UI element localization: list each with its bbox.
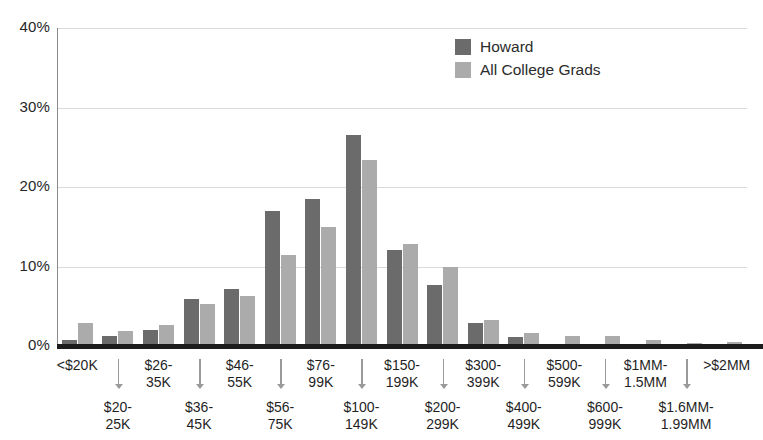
- legend-swatch-icon: [455, 62, 471, 78]
- bar-chart: 0%10%20%30%40% Howard All College Grads …: [0, 0, 763, 440]
- x-axis-tick-label: $20- 25K: [80, 399, 156, 433]
- bar-howard: [427, 285, 442, 346]
- bar-howard: [224, 289, 239, 346]
- x-axis-tick-label: >$2MM: [689, 357, 763, 374]
- bar-howard: [346, 135, 361, 346]
- bar-group: [630, 28, 661, 346]
- y-axis-line: [57, 28, 58, 347]
- x-axis-tick-label: $100- 149K: [323, 399, 399, 433]
- x-axis-tick-label: $46- 55K: [202, 357, 278, 391]
- bar-group: [265, 28, 296, 346]
- bar-howard: [387, 250, 402, 346]
- legend-swatch-icon: [455, 39, 471, 55]
- x-axis-tick-label: $300- 399K: [445, 357, 521, 391]
- x-axis-tick-label: $1.6MM- 1.99MM: [648, 399, 724, 433]
- bar-all-college-grads: [321, 227, 336, 346]
- bar-howard: [305, 199, 320, 346]
- bar-howard: [265, 211, 280, 346]
- x-axis-tick-label: $26- 35K: [120, 357, 196, 391]
- x-axis-tick-label: $1MM- 1.5MM: [608, 357, 684, 391]
- legend-item-all-college-grads: All College Grads: [455, 61, 601, 79]
- x-axis-tick-label: $36- 45K: [161, 399, 237, 433]
- bar-all-college-grads: [78, 323, 93, 346]
- bar-howard: [468, 323, 483, 346]
- y-axis-tick-label: 20%: [2, 177, 50, 194]
- bar-all-college-grads: [200, 304, 215, 346]
- bar-all-college-grads: [159, 325, 174, 346]
- bar-group: [711, 28, 742, 346]
- x-axis-tick-label: $200- 299K: [405, 399, 481, 433]
- x-axis-tick-label: $500- 599K: [526, 357, 602, 391]
- legend-label: Howard: [480, 38, 533, 56]
- x-axis-tick-label: <$20K: [39, 357, 115, 374]
- bar-group: [305, 28, 336, 346]
- bar-all-college-grads: [403, 244, 418, 346]
- legend-item-howard: Howard: [455, 38, 601, 56]
- bar-group: [427, 28, 458, 346]
- bar-all-college-grads: [443, 267, 458, 346]
- bar-group: [62, 28, 93, 346]
- x-axis-tick-label: $56- 75K: [242, 399, 318, 433]
- bar-group: [143, 28, 174, 346]
- y-axis-tick-label: 40%: [2, 18, 50, 35]
- y-axis-tick-label: 10%: [2, 257, 50, 274]
- bar-group: [102, 28, 133, 346]
- bar-group: [346, 28, 377, 346]
- x-axis-tick-label: $600- 999K: [567, 399, 643, 433]
- bar-group: [184, 28, 215, 346]
- y-axis-tick-label: 30%: [2, 98, 50, 115]
- x-axis-tick-label: $400- 499K: [486, 399, 562, 433]
- x-axis-tick-label: $150- 199K: [364, 357, 440, 391]
- bar-all-college-grads: [281, 255, 296, 346]
- x-axis-labels: <$20K$20- 25K$26- 35K$36- 45K$46- 55K$56…: [0, 349, 763, 440]
- bar-group: [224, 28, 255, 346]
- plot-area: [57, 28, 747, 346]
- bar-group: [387, 28, 418, 346]
- chart-legend: Howard All College Grads: [455, 38, 601, 79]
- bar-group: [671, 28, 702, 346]
- bar-all-college-grads: [240, 296, 255, 346]
- bar-howard: [184, 299, 199, 346]
- legend-label: All College Grads: [480, 61, 601, 79]
- x-axis-tick-label: $76- 99K: [283, 357, 359, 391]
- bar-all-college-grads: [484, 320, 499, 346]
- bar-all-college-grads: [362, 160, 377, 346]
